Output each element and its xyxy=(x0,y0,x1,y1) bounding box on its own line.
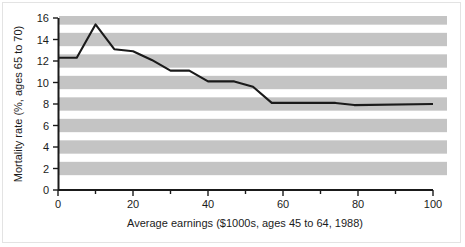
background-band xyxy=(59,33,447,46)
x-axis-tick-labels: 020406080100 xyxy=(55,198,442,210)
y-axis-tick-label: 8 xyxy=(43,98,49,110)
y-axis-tick-labels: 0246810121416 xyxy=(37,12,49,196)
x-axis-tick-label: 80 xyxy=(352,198,364,210)
background-band xyxy=(59,54,447,67)
plot-background-bands xyxy=(59,16,447,175)
x-axis-tick-label: 20 xyxy=(127,198,139,210)
x-axis-tick-label: 0 xyxy=(55,198,61,210)
y-axis-title: Mortality rate (%, ages 65 to 70) xyxy=(12,26,24,183)
x-axis-tick-label: 100 xyxy=(424,198,442,210)
mortality-vs-earnings-line-chart: 0246810121416 020406080100 Average earni… xyxy=(0,0,465,247)
y-axis-tick-label: 2 xyxy=(43,163,49,175)
chart-figure: 0246810121416 020406080100 Average earni… xyxy=(0,0,465,247)
y-axis-ticks xyxy=(53,18,58,190)
y-axis-tick-label: 12 xyxy=(37,55,49,67)
y-axis-tick-label: 16 xyxy=(37,12,49,24)
x-axis-tick-label: 40 xyxy=(202,198,214,210)
y-axis-tick-label: 0 xyxy=(43,184,49,196)
y-axis-tick-label: 6 xyxy=(43,120,49,132)
background-band xyxy=(59,16,447,25)
background-band xyxy=(59,162,447,175)
y-axis-tick-label: 14 xyxy=(37,34,49,46)
background-band xyxy=(59,119,447,132)
y-axis-tick-label: 10 xyxy=(37,77,49,89)
y-axis-tick-label: 4 xyxy=(43,141,49,153)
x-axis-title: Average earnings ($1000s, ages 45 to 64,… xyxy=(127,217,363,229)
background-band xyxy=(59,140,447,153)
x-axis-tick-label: 60 xyxy=(277,198,289,210)
